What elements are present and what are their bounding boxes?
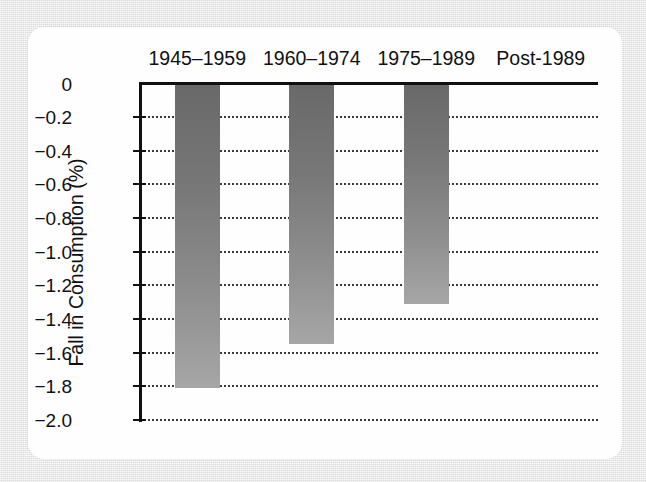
y-axis-tick-label: −0.6: [2, 175, 72, 194]
x-axis-category-label: 1975–1989: [369, 49, 484, 69]
figure-card: Fall in Consumption (%) 0−0.2−0.4−0.6−0.…: [28, 27, 622, 459]
y-axis-tick-label: 0: [2, 74, 72, 93]
y-axis-tick: [133, 116, 146, 118]
bar-chart-plot: Fall in Consumption (%) 0−0.2−0.4−0.6−0.…: [28, 27, 622, 459]
y-axis-tick: [133, 183, 146, 185]
x-axis-category-label: Post-1989: [484, 49, 599, 69]
y-axis-tick-label: −1.2: [2, 276, 72, 295]
x-axis-category-label: 1945–1959: [140, 49, 255, 69]
y-axis-tick: [133, 150, 146, 152]
y-axis-tick-label: −1.6: [2, 343, 72, 362]
y-axis-tick-label: −0.4: [2, 141, 72, 160]
bar: [289, 85, 334, 344]
y-axis-tick-label: −1.0: [2, 242, 72, 261]
gridline: [141, 419, 598, 421]
y-axis-tick: [133, 284, 146, 286]
y-axis-tick-label: −2.0: [2, 411, 72, 430]
y-axis-tick: [133, 217, 146, 219]
bar: [175, 85, 220, 388]
y-axis-tick-label: −0.2: [2, 108, 72, 127]
y-axis-tick: [133, 385, 146, 387]
y-axis-tick: [133, 352, 146, 354]
y-axis-tick-label: −1.8: [2, 377, 72, 396]
bar: [404, 85, 449, 304]
y-axis-tick-label: −0.8: [2, 209, 72, 228]
y-axis-tick-label: −1.4: [2, 310, 72, 329]
figure-frame: Fall in Consumption (%) 0−0.2−0.4−0.6−0.…: [0, 0, 646, 482]
y-axis-tick: [133, 251, 146, 253]
y-axis-tick: [133, 318, 146, 320]
x-axis-category-label: 1960–1974: [255, 49, 370, 69]
y-axis-tick: [133, 419, 146, 421]
